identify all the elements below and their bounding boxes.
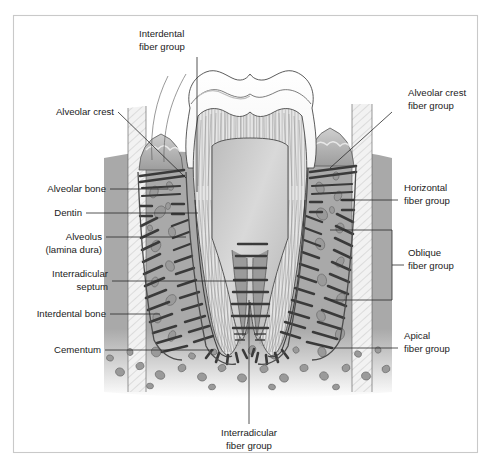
label-dentin-line1: Dentin: [54, 207, 82, 218]
label-alveolar-bone: Alveolar bone: [47, 183, 106, 194]
diagram-canvas: Interdental fiber group Alveolar crest A…: [0, 0, 495, 469]
label-interradicular-fiber-group-line2: fiber group: [226, 440, 272, 451]
label-alveolus-line2: (lamina dura): [45, 244, 102, 255]
label-interradicular-septum: Interradicular septum: [52, 268, 109, 292]
label-horizontal-fiber-group: Horizontal fiber group: [404, 182, 450, 206]
label-alveolar-crest-fiber-group-line2: fiber group: [408, 100, 454, 111]
label-horizontal-fiber-group-line2: fiber group: [404, 195, 450, 206]
label-oblique-fiber-group-line1: Oblique: [408, 247, 441, 258]
label-alveolar-crest-fiber-group-line1: Alveolar crest: [408, 87, 466, 98]
label-alveolar-crest: Alveolar crest: [56, 106, 114, 117]
label-apical-fiber-group-line2: fiber group: [404, 343, 450, 354]
label-alveolus-line1: Alveolus: [66, 231, 102, 242]
label-interdental-bone-line1: Interdental bone: [37, 308, 106, 319]
label-interdental-fiber-group: Interdental fiber group: [139, 28, 185, 52]
label-alveolar-crest-line1: Alveolar crest: [56, 106, 114, 117]
bone-cut-edge-right: [352, 104, 372, 392]
label-cementum-line1: Cementum: [54, 344, 101, 355]
label-interdental-fiber-group-line2: fiber group: [139, 41, 185, 52]
label-interradicular-fiber-group: Interradicular fiber group: [221, 427, 278, 451]
label-horizontal-fiber-group-line1: Horizontal: [404, 182, 447, 193]
label-alveolar-crest-fiber-group: Alveolar crest fiber group: [408, 87, 466, 111]
label-apical-fiber-group: Apical fiber group: [404, 330, 450, 354]
label-oblique-fiber-group: Oblique fiber group: [408, 247, 454, 271]
label-apical-fiber-group-line1: Apical: [404, 330, 430, 341]
label-interradicular-septum-line2: septum: [77, 281, 108, 292]
label-dentin: Dentin: [54, 207, 82, 218]
label-alveolus: Alveolus (lamina dura): [45, 231, 102, 255]
label-interradicular-septum-line1: Interradicular: [52, 268, 109, 279]
label-oblique-fiber-group-line2: fiber group: [408, 260, 454, 271]
label-cementum: Cementum: [54, 344, 101, 355]
label-interdental-fiber-group-line1: Interdental: [139, 28, 184, 39]
label-alveolar-bone-line1: Alveolar bone: [47, 183, 106, 194]
label-interdental-bone: Interdental bone: [37, 308, 106, 319]
label-interradicular-fiber-group-line1: Interradicular: [221, 427, 278, 438]
periodontium-diagram: Interdental fiber group Alveolar crest A…: [0, 0, 495, 469]
